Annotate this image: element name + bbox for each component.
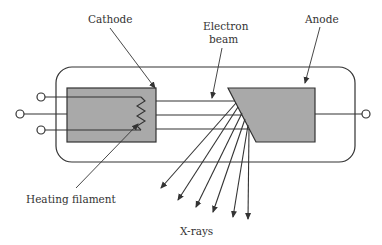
cathode-block [67,88,156,142]
cathode-pointer [110,28,155,88]
electron-beam-label-line2: beam [209,33,238,45]
xrays-label: X-rays [180,225,213,237]
heating-filament-label: Heating filament [26,193,116,205]
anode-pointer [305,27,320,83]
xray-tube-diagram [0,0,382,245]
electron-beam [156,101,249,129]
cathode-label: Cathode [88,13,133,25]
electron-beam-pointer [212,48,222,98]
anode-label: Anode [305,13,339,25]
anode-terminal [362,110,370,118]
electron-beam-label-line1: Electron [203,20,248,32]
xray-arrows [161,103,249,219]
